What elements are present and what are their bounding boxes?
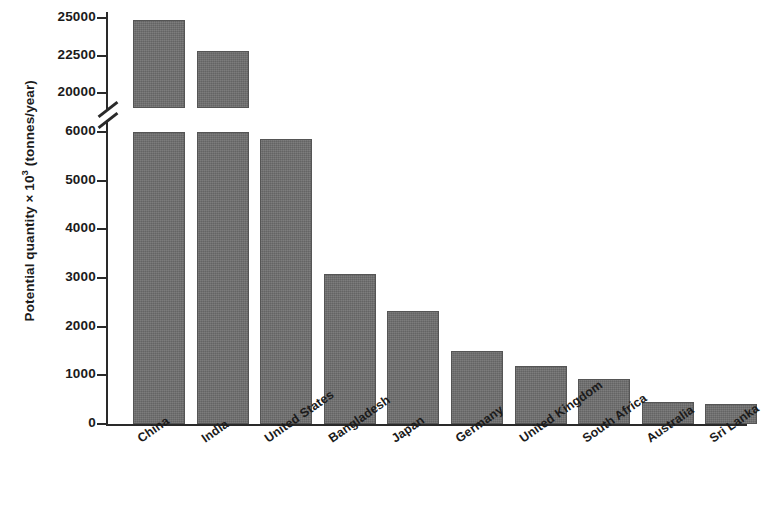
y-axis-tick xyxy=(97,17,106,19)
bar xyxy=(642,6,694,426)
y-axis-tick-label: 3000 xyxy=(65,269,96,284)
y-axis-tick xyxy=(97,423,106,425)
y-axis-tick xyxy=(97,92,106,94)
y-axis-tick xyxy=(97,374,106,376)
bar xyxy=(578,6,630,426)
bar-segment-lower xyxy=(260,139,312,424)
bar xyxy=(451,6,503,426)
plot-area xyxy=(106,6,750,425)
bar-segment-upper xyxy=(197,51,249,108)
y-axis-tick xyxy=(97,326,106,328)
bar-segment-upper xyxy=(133,20,185,109)
y-axis-tick-label: 25000 xyxy=(57,9,96,24)
y-axis-tick xyxy=(97,55,106,57)
y-axis-tick xyxy=(97,131,106,133)
y-axis-tick-label: 2000 xyxy=(65,318,96,333)
x-axis-category-labels: ChinaIndiaUnited StatesBangladeshJapanGe… xyxy=(106,426,755,515)
y-axis-tick-label: 22500 xyxy=(57,47,96,62)
y-axis-tick-label: 1000 xyxy=(65,366,96,381)
y-axis-tick-labels: 0100020003000400050006000200002250025000 xyxy=(0,0,96,515)
y-axis-tick-label: 0 xyxy=(88,415,96,430)
y-axis-tick-label: 5000 xyxy=(65,172,96,187)
bar xyxy=(197,6,249,426)
y-axis-tick-label: 20000 xyxy=(57,84,96,99)
bar xyxy=(133,6,185,426)
y-axis-tick xyxy=(97,180,106,182)
bar xyxy=(387,6,439,426)
bar-segment-lower xyxy=(387,311,439,424)
y-axis-tick-label: 4000 xyxy=(65,220,96,235)
bar-segment-lower xyxy=(197,132,249,424)
bar xyxy=(324,6,376,426)
y-axis-tick-label: 6000 xyxy=(65,123,96,138)
y-axis-tick xyxy=(97,228,106,230)
bar-series xyxy=(108,6,750,426)
bar xyxy=(515,6,567,426)
bar xyxy=(705,6,757,426)
y-axis-tick xyxy=(97,277,106,279)
bar-segment-lower xyxy=(133,132,185,424)
bar xyxy=(260,6,312,426)
